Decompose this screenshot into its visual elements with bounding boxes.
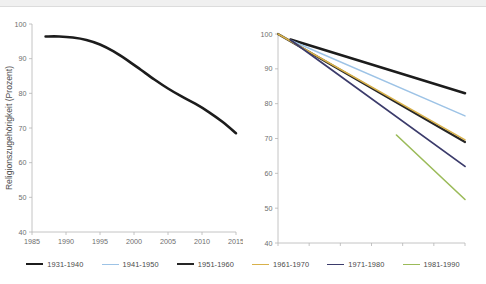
svg-text:1995: 1995 bbox=[332, 248, 348, 251]
svg-text:70: 70 bbox=[19, 124, 27, 133]
svg-text:1990: 1990 bbox=[58, 237, 74, 246]
svg-text:2015: 2015 bbox=[457, 248, 473, 251]
svg-text:40: 40 bbox=[265, 239, 273, 248]
svg-text:100: 100 bbox=[15, 20, 27, 29]
legend-item-1971-1980[interactable]: 1971-1980 bbox=[327, 260, 384, 269]
svg-text:50: 50 bbox=[19, 193, 27, 202]
series-line-1931-1940 bbox=[290, 40, 465, 94]
svg-text:80: 80 bbox=[19, 89, 27, 98]
svg-text:2005: 2005 bbox=[395, 248, 411, 251]
legend-item-1941-1950[interactable]: 1941-1950 bbox=[102, 260, 159, 269]
legend-item-label: 1981-1990 bbox=[424, 260, 460, 269]
legend-item-label: 1971-1980 bbox=[348, 260, 384, 269]
svg-text:2010: 2010 bbox=[194, 237, 210, 246]
legend-swatch-icon bbox=[403, 264, 420, 265]
legend-item-label: 1941-1950 bbox=[123, 260, 159, 269]
chart-panel-right: 4050607080901001985199019952000200520102… bbox=[243, 0, 486, 250]
svg-text:2000: 2000 bbox=[364, 248, 380, 251]
chart-legend: 1931-19401941-19501951-19601961-19701971… bbox=[0, 252, 486, 276]
svg-text:2010: 2010 bbox=[426, 248, 442, 251]
svg-text:90: 90 bbox=[265, 64, 273, 73]
svg-text:1985: 1985 bbox=[270, 248, 286, 251]
legend-swatch-icon bbox=[102, 264, 119, 265]
svg-text:40: 40 bbox=[19, 228, 27, 237]
legend-swatch-icon bbox=[177, 263, 194, 265]
svg-text:60: 60 bbox=[265, 169, 273, 178]
svg-text:1985: 1985 bbox=[24, 237, 40, 246]
legend-swatch-icon bbox=[252, 264, 269, 265]
svg-text:50: 50 bbox=[265, 204, 273, 213]
chart-panel-left: 4050607080901001985199019952000200520102… bbox=[0, 0, 243, 250]
legend-item-label: 1951-1960 bbox=[198, 260, 234, 269]
series-line-1941-1950 bbox=[290, 40, 465, 116]
legend-item-1931-1940[interactable]: 1931-1940 bbox=[26, 260, 83, 269]
svg-text:2005: 2005 bbox=[160, 237, 176, 246]
svg-text:70: 70 bbox=[265, 134, 273, 143]
right-plot-svg: 4050607080901001985199019952000200520102… bbox=[243, 0, 486, 250]
svg-text:90: 90 bbox=[19, 54, 27, 63]
svg-text:80: 80 bbox=[265, 99, 273, 108]
legend-item-1951-1960[interactable]: 1951-1960 bbox=[177, 260, 234, 269]
legend-swatch-icon bbox=[327, 264, 344, 265]
legend-item-1961-1970[interactable]: 1961-1970 bbox=[252, 260, 309, 269]
series-line-1981-1990 bbox=[396, 135, 465, 199]
series-line-1971-1980 bbox=[290, 40, 465, 166]
left-plot-svg: 4050607080901001985199019952000200520102… bbox=[0, 0, 243, 250]
series-line-gesamt bbox=[46, 36, 236, 133]
series-line-1961-1970 bbox=[278, 34, 465, 140]
legend-item-label: 1931-1940 bbox=[47, 260, 83, 269]
svg-text:2000: 2000 bbox=[126, 237, 142, 246]
legend-item-1981-1990[interactable]: 1981-1990 bbox=[403, 260, 460, 269]
svg-text:2015: 2015 bbox=[228, 237, 243, 246]
svg-text:1995: 1995 bbox=[92, 237, 108, 246]
chart-figure: 4050607080901001985199019952000200520102… bbox=[0, 0, 486, 284]
svg-text:100: 100 bbox=[261, 30, 273, 39]
svg-text:60: 60 bbox=[19, 158, 27, 167]
svg-text:1990: 1990 bbox=[301, 248, 317, 251]
legend-item-label: 1961-1970 bbox=[273, 260, 309, 269]
y-axis-title: Religionszugehörigkeit (Prozent) bbox=[4, 66, 14, 190]
legend-swatch-icon bbox=[26, 263, 43, 265]
